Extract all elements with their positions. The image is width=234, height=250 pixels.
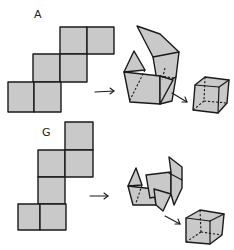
closed-cube-a (193, 77, 229, 113)
closed-cube-g (186, 210, 224, 244)
arrow-right-icon (95, 88, 114, 94)
arrow-diagonal-icon (165, 216, 180, 224)
partially-folded-cube-a (124, 26, 179, 104)
partially-folded-cube-g (128, 157, 182, 211)
arrow-diagonal-icon (172, 93, 187, 102)
arrow-right-icon (90, 193, 108, 199)
cube-nets-figure: A G (0, 0, 234, 250)
net-a (8, 27, 114, 112)
net-g (18, 122, 93, 230)
